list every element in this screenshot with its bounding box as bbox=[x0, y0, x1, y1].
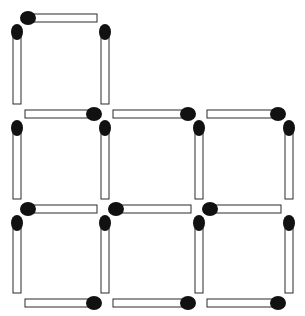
match-head bbox=[20, 11, 36, 25]
matchstick bbox=[11, 120, 23, 199]
matchstick bbox=[207, 296, 286, 310]
match-head bbox=[270, 107, 286, 121]
matchstick bbox=[193, 215, 205, 293]
match-head bbox=[99, 24, 111, 40]
match-head bbox=[283, 120, 295, 136]
match-stick-body bbox=[113, 205, 191, 213]
matchstick bbox=[99, 120, 111, 199]
match-head bbox=[180, 296, 196, 310]
match-head bbox=[99, 120, 111, 136]
match-head bbox=[270, 296, 286, 310]
match-stick-body bbox=[207, 299, 281, 307]
match-stick-body bbox=[207, 205, 281, 213]
matchstick bbox=[207, 107, 286, 121]
matchstick bbox=[99, 215, 111, 293]
matchstick bbox=[193, 120, 205, 199]
match-stick-body bbox=[113, 299, 191, 307]
match-head bbox=[283, 215, 295, 231]
matchstick bbox=[283, 120, 295, 199]
match-head bbox=[11, 24, 23, 40]
match-head bbox=[202, 202, 218, 216]
matchstick bbox=[20, 11, 97, 25]
match-head bbox=[180, 107, 196, 121]
match-head bbox=[11, 215, 23, 231]
match-head bbox=[86, 296, 102, 310]
matchstick bbox=[283, 215, 295, 293]
matchstick bbox=[20, 202, 97, 216]
matchstick bbox=[113, 296, 196, 310]
match-head bbox=[99, 215, 111, 231]
matchstick bbox=[11, 24, 23, 104]
matchstick bbox=[99, 24, 111, 104]
match-head bbox=[193, 215, 205, 231]
matchstick bbox=[108, 202, 191, 216]
matchstick bbox=[25, 296, 102, 310]
match-stick-body bbox=[207, 110, 281, 118]
match-head bbox=[86, 107, 102, 121]
matchstick bbox=[113, 107, 196, 121]
match-stick-body bbox=[113, 110, 191, 118]
match-head bbox=[11, 120, 23, 136]
match-head bbox=[108, 202, 124, 216]
match-head bbox=[20, 202, 36, 216]
matchstick bbox=[202, 202, 281, 216]
matchstick bbox=[11, 215, 23, 293]
matchstick bbox=[25, 107, 102, 121]
matchstick-puzzle bbox=[0, 0, 305, 316]
match-head bbox=[193, 120, 205, 136]
